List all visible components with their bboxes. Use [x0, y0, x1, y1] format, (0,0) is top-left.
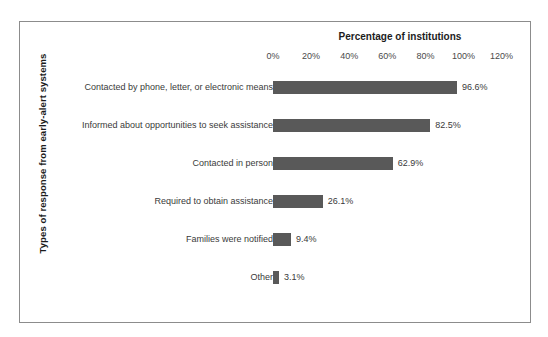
category-label-0: Contacted by phone, letter, or electroni… [84, 81, 273, 93]
x-axis-title: Percentage of institutions [280, 31, 520, 42]
bar-value-label-4: 9.4% [296, 233, 317, 246]
x-tick-label-6: 120% [482, 51, 522, 61]
bar-3 [273, 195, 323, 208]
x-tick-label-5: 100% [444, 51, 484, 61]
bar-2 [273, 157, 393, 170]
category-label-1: Informed about opportunities to seek ass… [82, 119, 273, 131]
bar-1 [273, 119, 430, 132]
bar-5 [273, 271, 279, 284]
bar-0 [273, 81, 457, 94]
x-axis-tick-labels: 0%20%40%60%80%100%120% [20, 51, 532, 65]
bar-track: 96.6% [273, 75, 532, 101]
bar-row: Other3.1% [20, 265, 532, 291]
bar-value-label-1: 82.5% [435, 119, 461, 132]
bar-track: 62.9% [273, 151, 532, 177]
bar-row: Required to obtain assistance26.1% [20, 189, 532, 215]
bar-track: 9.4% [273, 227, 532, 253]
chart-container: Percentage of institutions 0%20%40%60%80… [0, 0, 548, 337]
bar-row: Contacted in person62.9% [20, 151, 532, 177]
x-tick-label-2: 40% [329, 51, 369, 61]
x-tick-label-3: 60% [367, 51, 407, 61]
bar-value-label-3: 26.1% [328, 195, 354, 208]
bar-track: 3.1% [273, 265, 532, 291]
chart-frame-border: Percentage of institutions 0%20%40%60%80… [19, 21, 531, 323]
plot-area: Contacted by phone, letter, or electroni… [20, 69, 532, 319]
bar-track: 26.1% [273, 189, 532, 215]
bar-value-label-5: 3.1% [284, 271, 305, 284]
bar-row: Families were notified9.4% [20, 227, 532, 253]
category-label-2: Contacted in person [192, 157, 273, 169]
category-label-3: Required to obtain assistance [154, 195, 273, 207]
bar-4 [273, 233, 291, 246]
bar-row: Informed about opportunities to seek ass… [20, 113, 532, 139]
bar-row: Contacted by phone, letter, or electroni… [20, 75, 532, 101]
bar-value-label-2: 62.9% [398, 157, 424, 170]
bar-track: 82.5% [273, 113, 532, 139]
category-label-4: Families were notified [186, 233, 273, 245]
x-tick-label-0: 0% [253, 51, 293, 61]
bar-value-label-0: 96.6% [462, 81, 488, 94]
category-label-5: Other [250, 271, 273, 283]
x-tick-label-4: 80% [405, 51, 445, 61]
x-tick-label-1: 20% [291, 51, 331, 61]
